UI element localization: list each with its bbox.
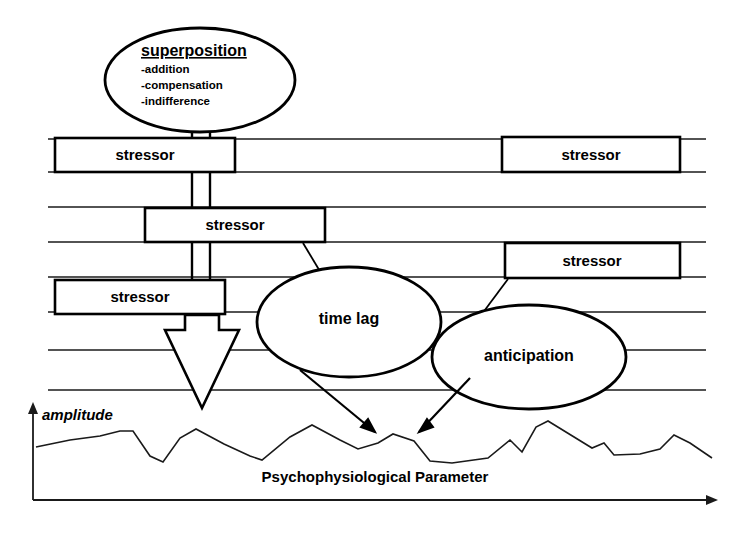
y-axis-label: amplitude [42,406,113,423]
stressor-box-left-2[interactable]: stressor [145,208,325,242]
superposition-item-addition: -addition [141,63,190,75]
diagram-canvas: stressor stressor stressor stressor stre… [0,0,754,534]
stressor-box-label: stressor [115,146,174,163]
superposition-title: superposition [141,42,247,59]
stressor-box-label: stressor [562,252,621,269]
superposition-node[interactable]: superposition -addition -compensation -i… [105,28,295,132]
anticipation-arrow [419,378,470,432]
diagram-svg: stressor stressor stressor stressor stre… [0,0,754,534]
anticipation-label: anticipation [484,347,574,364]
stressor-box-left-1[interactable]: stressor [55,138,235,172]
time-lag-ellipse[interactable]: time lag [257,267,441,377]
time-lag-label: time lag [319,310,379,327]
superposition-item-compensation: -compensation [141,79,223,91]
y-axis-arrowhead-icon [28,402,38,414]
signal-waveform [36,421,712,463]
big-down-arrow-icon [165,315,239,408]
stressor-box-right-1[interactable]: stressor [502,137,680,172]
stressor-box-left-3[interactable]: stressor [55,280,225,314]
time-lag-arrow [300,370,375,432]
anticipation-ellipse[interactable]: anticipation [432,305,626,409]
stressor-box-label: stressor [110,288,169,305]
chart-axes: amplitude Psychophysiological Parameter [28,402,718,505]
superposition-item-indifference: -indifference [141,95,210,107]
stressor-box-right-2[interactable]: stressor [505,243,680,278]
x-axis-label: Psychophysiological Parameter [262,468,489,485]
stressor-box-label: stressor [561,146,620,163]
x-axis-arrowhead-icon [706,495,718,505]
stressor-box-label: stressor [205,216,264,233]
